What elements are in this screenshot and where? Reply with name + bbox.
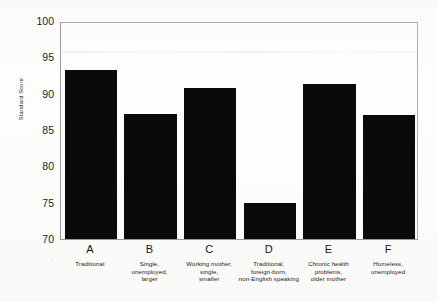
bar-D xyxy=(244,203,297,239)
bar-E xyxy=(303,84,356,239)
y-tick-label-95: 95 xyxy=(20,51,54,63)
plot-area xyxy=(60,22,418,240)
x-category-description: Homeless,unemployed xyxy=(348,260,429,275)
y-tick-label-90: 90 xyxy=(20,88,54,100)
bar-F xyxy=(363,115,416,239)
x-axis-category-labels: ATraditionalBSingle,unemployed,largerCWo… xyxy=(60,243,418,301)
bar-C xyxy=(184,88,237,239)
x-category-F: FHomeless,unemployed xyxy=(348,243,429,275)
bar-A xyxy=(65,70,118,239)
bar-chart: Standard Score 100959085807570 ATraditio… xyxy=(0,0,437,302)
bar-B xyxy=(124,114,177,239)
y-tick-label-85: 85 xyxy=(20,124,54,136)
y-tick-label-75: 75 xyxy=(20,197,54,209)
x-category-letter: F xyxy=(348,243,429,256)
bars-group xyxy=(61,23,417,239)
y-tick-label-80: 80 xyxy=(20,160,54,172)
y-tick-label-100: 100 xyxy=(20,15,54,27)
